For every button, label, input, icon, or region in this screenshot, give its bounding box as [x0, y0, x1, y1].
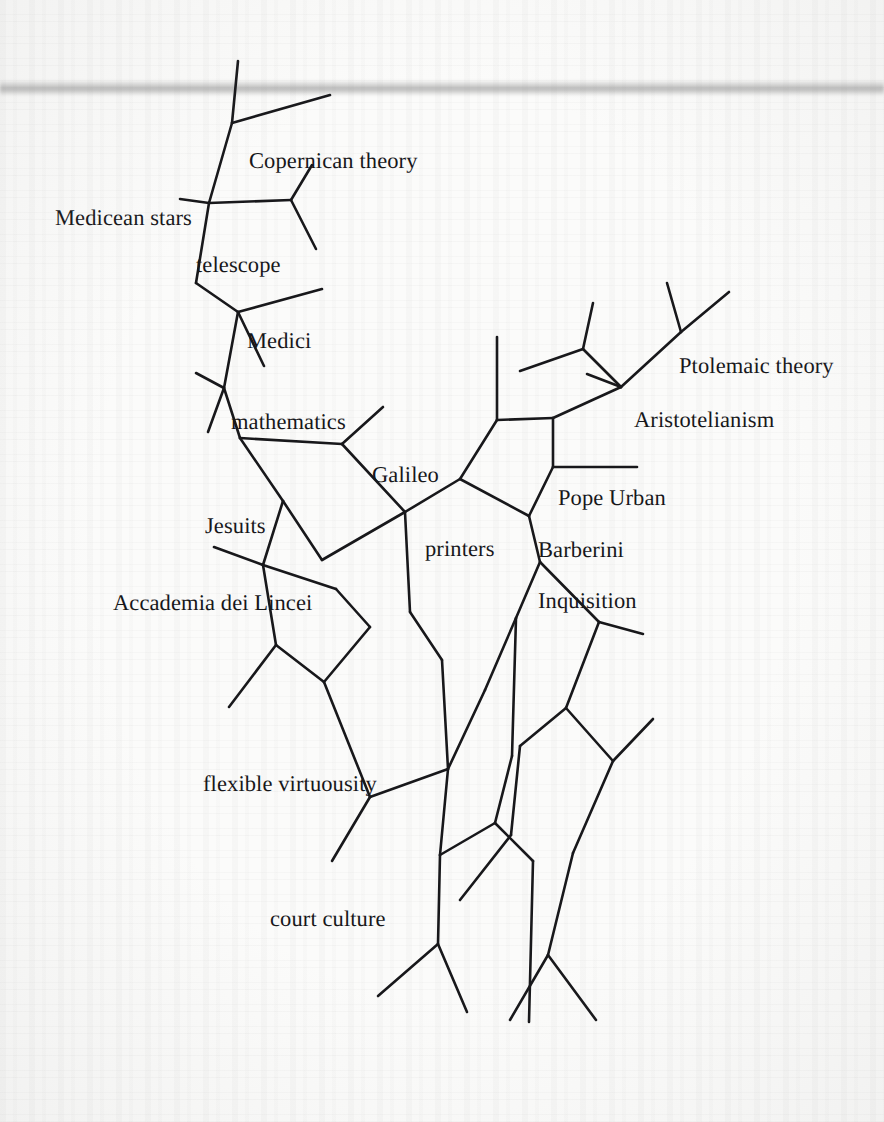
diagram-edge	[378, 944, 438, 996]
diagram-edge	[322, 512, 405, 560]
diagram-edge	[485, 618, 516, 690]
diagram-edge	[495, 756, 512, 823]
diagram-edge	[196, 373, 224, 388]
diagram-edge	[548, 955, 596, 1020]
diagram-edge	[214, 547, 263, 565]
diagram-edge	[529, 861, 533, 1022]
diagram-edge	[324, 627, 370, 682]
diagram-edge	[342, 407, 383, 444]
diagram-edge	[583, 303, 593, 349]
diagram-edge	[438, 855, 440, 944]
node-label-accademia-dei-lincei: Accademia dei Lincei	[113, 592, 312, 615]
diagram-edge	[613, 719, 653, 761]
node-label-jesuits: Jesuits	[205, 515, 266, 538]
diagram-edge	[180, 199, 209, 203]
node-label-telescope: telescope	[196, 254, 281, 277]
diagram-edge	[583, 349, 621, 387]
diagram-edge	[238, 289, 322, 312]
diagram-edge	[440, 823, 495, 855]
diagram-edge	[224, 312, 238, 388]
diagram-edge	[460, 479, 529, 516]
diagram-edge	[516, 562, 540, 618]
diagram-edge	[520, 708, 566, 746]
diagram-edge	[599, 622, 643, 634]
diagram-edge	[520, 349, 583, 371]
diagram-edge	[240, 438, 342, 444]
diagram-edge	[548, 853, 573, 955]
diagram-edge	[438, 944, 467, 1012]
node-label-inquisition: Inquisition	[538, 590, 637, 613]
node-label-aristotelianism: Aristotelianism	[634, 409, 774, 432]
network-diagram-canvas	[0, 0, 884, 1122]
node-label-medicean-stars: Medicean stars	[55, 207, 192, 230]
diagram-edge	[495, 823, 533, 861]
node-label-galileo: Galileo	[372, 464, 439, 487]
node-label-court-culture: court culture	[270, 908, 386, 931]
diagram-edge	[291, 200, 316, 249]
node-label-flexible-virtuousity: flexible virtuousity	[203, 773, 377, 796]
diagram-edge	[232, 61, 238, 123]
diagram-edge	[276, 645, 324, 682]
diagram-edge	[336, 589, 370, 627]
node-label-barberini: Barberini	[538, 539, 624, 562]
diagram-edge	[263, 565, 336, 589]
diagram-edge	[332, 797, 370, 861]
diagram-edge	[448, 690, 485, 769]
diagram-edge	[209, 200, 291, 203]
diagram-edge	[460, 835, 511, 900]
node-label-printers: printers	[425, 538, 495, 561]
diagram-edge	[209, 123, 232, 203]
diagram-edge	[208, 388, 224, 432]
diagram-edge	[621, 332, 681, 387]
diagram-edge	[442, 660, 448, 769]
diagram-edge	[440, 769, 448, 855]
diagram-edge	[196, 283, 238, 312]
diagram-edge	[681, 292, 729, 332]
diagram-edge	[566, 622, 599, 708]
diagram-edge	[553, 387, 621, 418]
node-label-ptolemaic-theory: Ptolemaic theory	[679, 355, 834, 378]
diagram-edge	[283, 501, 322, 560]
diagram-edge	[410, 612, 442, 660]
diagram-edge	[667, 283, 681, 332]
scanned-page: Copernican theoryMedicean starstelescope…	[0, 0, 884, 1122]
diagram-edge	[529, 467, 553, 516]
diagram-edge	[573, 761, 613, 853]
diagram-edge	[229, 645, 276, 707]
diagram-edge	[460, 420, 497, 479]
node-label-copernican-theory: Copernican theory	[249, 150, 418, 173]
diagram-edge	[263, 501, 283, 565]
diagram-edge	[405, 512, 410, 612]
node-label-pope-urban: Pope Urban	[558, 487, 666, 510]
diagram-edge	[232, 95, 330, 123]
diagram-edge	[566, 708, 613, 761]
node-label-medici: Medici	[247, 330, 311, 353]
diagram-edge	[497, 418, 553, 420]
diagram-edge	[240, 438, 283, 501]
diagram-edge	[512, 618, 516, 756]
diagram-edge	[370, 769, 448, 797]
node-label-mathematics: mathematics	[231, 411, 346, 434]
